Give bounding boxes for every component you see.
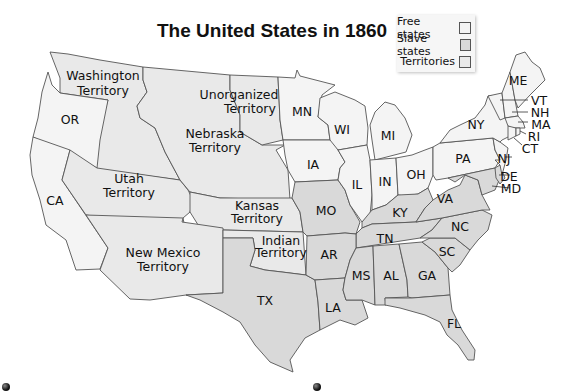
label-missouri: MO xyxy=(316,203,337,218)
region-connecticut[interactable] xyxy=(508,126,516,140)
bullet-pin-icon xyxy=(2,383,10,391)
label-illinois: IL xyxy=(352,177,363,192)
label-oregon: OR xyxy=(61,112,80,127)
label-new-jersey: NJ xyxy=(497,151,510,166)
label-virginia: VA xyxy=(437,191,454,206)
label-indian-2: Territory xyxy=(254,245,307,260)
label-washington-1: Washington xyxy=(66,68,139,83)
label-ohio: OH xyxy=(406,167,425,182)
label-maryland: MD xyxy=(501,181,521,196)
us-map-1860: Washington Territory OR Unorganized Terr… xyxy=(0,0,572,391)
label-nebraska-1: Nebraska xyxy=(186,126,245,141)
label-maine: ME xyxy=(509,73,528,88)
bullet-pin-icon xyxy=(313,383,321,391)
label-indiana: IN xyxy=(378,174,391,189)
map-title: The United States in 1860 xyxy=(157,20,387,42)
legend-territories: Territories xyxy=(397,53,471,70)
label-louisiana: LA xyxy=(325,300,341,315)
label-california: CA xyxy=(46,193,64,208)
label-new-york: NY xyxy=(468,117,485,132)
label-connecticut: CT xyxy=(522,141,539,156)
map-legend: Free states Slave states Territories xyxy=(397,15,475,72)
legend-swatch-territories xyxy=(459,56,471,68)
label-south-carolina: SC xyxy=(439,244,456,259)
region-florida[interactable] xyxy=(385,295,475,360)
label-wisconsin: WI xyxy=(334,122,350,137)
legend-slave-states: Slave states xyxy=(397,36,471,53)
label-unorganized-2: Territory xyxy=(223,101,276,116)
label-new-mexico-1: New Mexico xyxy=(126,245,201,260)
legend-swatch-free xyxy=(459,22,471,34)
label-florida: FL xyxy=(447,316,461,331)
label-arkansas: AR xyxy=(320,247,338,262)
label-new-mexico-2: Territory xyxy=(136,259,189,274)
label-utah-2: Territory xyxy=(102,185,155,200)
label-iowa: IA xyxy=(307,157,320,172)
label-nebraska-2: Territory xyxy=(188,140,241,155)
label-texas: TX xyxy=(256,293,274,308)
label-michigan: MI xyxy=(381,128,395,143)
label-mississippi: MS xyxy=(352,268,371,283)
label-kentucky: KY xyxy=(392,205,408,220)
legend-label: Slave states xyxy=(397,32,456,58)
label-washington-2: Territory xyxy=(76,83,129,98)
legend-swatch-slave xyxy=(460,39,471,51)
region-rhode-island[interactable] xyxy=(516,128,520,136)
label-north-carolina: NC xyxy=(451,219,469,234)
label-unorganized-1: Unorganized xyxy=(200,87,279,102)
label-utah-1: Utah xyxy=(114,171,144,186)
legend-label: Territories xyxy=(400,55,455,68)
label-kansas-2: Territory xyxy=(230,211,283,226)
label-pennsylvania: PA xyxy=(455,151,471,166)
label-tennessee: TN xyxy=(376,231,394,246)
label-georgia: GA xyxy=(418,268,437,283)
label-alabama: AL xyxy=(383,268,399,283)
label-minnesota: MN xyxy=(292,104,312,119)
